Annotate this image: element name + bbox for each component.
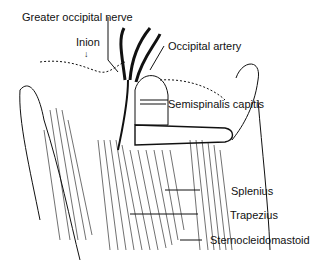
label-splenius: Splenius [231, 185, 273, 197]
inion-arrow-icon: ↓ [84, 48, 89, 60]
label-greater-occipital-nerve: Greater occipital nerve [22, 11, 133, 23]
label-inion: Inion [76, 36, 100, 48]
label-occipital-artery: Occipital artery [168, 40, 241, 52]
retractor [135, 125, 233, 145]
label-semispinalis-capitis: Semispinalis capitis [168, 98, 264, 110]
greater-occipital-nerve [121, 28, 125, 80]
leader-greater-occipital [108, 17, 118, 72]
anatomy-drawing [0, 0, 317, 266]
label-trapezius: Trapezius [230, 209, 278, 221]
label-sternocleidomastoid: Sternocleidomastoid [210, 234, 310, 246]
skull-outline [40, 61, 125, 72]
